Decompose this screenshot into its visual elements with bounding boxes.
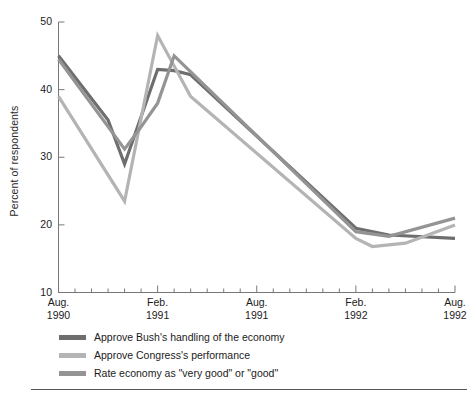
- chart-legend: Approve Bush's handling of the economyAp…: [59, 328, 459, 382]
- x-tick-label: Feb.1991: [123, 296, 193, 321]
- y-tick-label: 40: [26, 83, 52, 95]
- x-tick-label: Aug.1992: [420, 296, 471, 321]
- y-tick-label: 50: [26, 15, 52, 27]
- x-tick-year: 1992: [420, 309, 471, 322]
- x-tick-marks: [59, 286, 456, 293]
- x-tick-year: 1992: [321, 309, 391, 322]
- x-tick-label: Aug.1990: [24, 296, 94, 321]
- x-tick-month: Feb.: [123, 296, 193, 309]
- chart-figure: Percent of respondents 5040302010 Aug.19…: [0, 0, 471, 399]
- x-tick-month: Aug.: [420, 296, 471, 309]
- series-line: [59, 56, 456, 239]
- legend-label: Approve Congress's performance: [94, 349, 250, 361]
- legend-swatch: [59, 371, 86, 376]
- axis-lines: [59, 22, 456, 293]
- x-tick-year: 1990: [24, 309, 94, 322]
- legend-label: Rate economy as "very good" or "good": [94, 367, 278, 379]
- x-tick-year: 1991: [222, 309, 292, 322]
- x-tick-label: Aug.1991: [222, 296, 292, 321]
- legend-item: Rate economy as "very good" or "good": [59, 364, 459, 382]
- y-tick-label: 20: [26, 218, 52, 230]
- y-tick-label: 30: [26, 150, 52, 162]
- x-tick-year: 1991: [123, 309, 193, 322]
- footer-divider: [31, 389, 467, 390]
- data-series-layer: [59, 36, 456, 247]
- y-axis-title: Percent of respondents: [8, 61, 20, 261]
- x-tick-month: Aug.: [24, 296, 94, 309]
- legend-item: Approve Bush's handling of the economy: [59, 328, 459, 346]
- legend-swatch: [59, 353, 86, 358]
- legend-item: Approve Congress's performance: [59, 346, 459, 364]
- x-tick-label: Feb.1992: [321, 296, 391, 321]
- legend-label: Approve Bush's handling of the economy: [94, 331, 285, 343]
- legend-swatch: [59, 335, 86, 340]
- x-tick-month: Aug.: [222, 296, 292, 309]
- x-tick-month: Feb.: [321, 296, 391, 309]
